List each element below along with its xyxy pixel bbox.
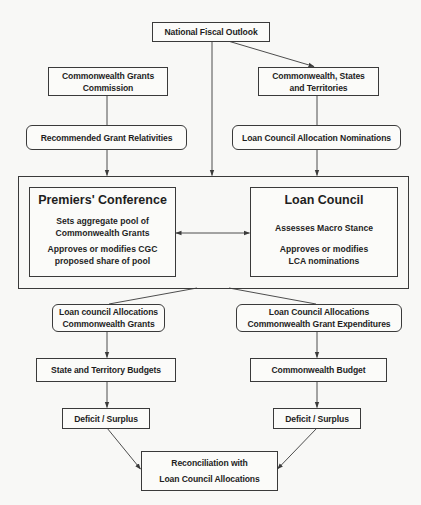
node-lca-commonwealth-grant-expenditures: Loan Council Allocations Commonwealth Gr… (236, 304, 402, 332)
fiscal-flow-diagram: National Fiscal Outlook Commonwealth Gra… (0, 0, 421, 505)
node-label: Recommended Grant Relativities (41, 132, 173, 144)
edge-container-to-lca-grants (109, 288, 197, 304)
node-label: Commonwealth Grant Expenditures (247, 318, 390, 330)
edge-deficit-left-to-reconciliation (107, 428, 141, 469)
node-label: Loan Council Allocation Nominations (242, 132, 391, 144)
desc-line: Commonwealth Grants (30, 227, 175, 239)
node-lca-nominations: Loan Council Allocation Nominations (232, 125, 401, 150)
node-label: State and Territory Budgets (51, 364, 161, 376)
node-label: Commonwealth Grants (62, 70, 154, 82)
node-label: Deficit / Surplus (285, 413, 349, 425)
edge-deficit-right-to-reconciliation (278, 428, 318, 469)
node-label: Loan Council Allocations (159, 471, 259, 487)
premiers-conference-desc-pool: Sets aggregate pool of Commonwealth Gran… (30, 215, 175, 239)
desc-line: Sets aggregate pool of (30, 215, 175, 227)
loan-council-desc-lca: Approves or modifies LCA nominations (251, 243, 397, 267)
node-lca-commonwealth-grants: Loan council Allocations Commonwealth Gr… (52, 304, 165, 332)
node-label: National Fiscal Outlook (164, 26, 257, 38)
desc-line: Approves or modifies CGC (30, 243, 175, 255)
node-deficit-surplus-right: Deficit / Surplus (273, 408, 361, 429)
node-premiers-conference: Premiers' Conference Sets aggregate pool… (29, 187, 176, 277)
edge-container-to-lca-expenditures (229, 288, 316, 304)
node-commonwealth-states-territories: Commonwealth, States and Territories (258, 67, 379, 96)
node-label: Reconciliation with (171, 455, 247, 471)
node-label: Commonwealth Budget (271, 364, 365, 376)
node-reconciliation: Reconciliation with Loan Council Allocat… (141, 451, 278, 491)
node-label: Commonwealth, States (272, 70, 365, 82)
node-label: Loan council Allocations (59, 306, 158, 318)
node-label: Commission (83, 82, 134, 94)
loan-council-desc-macro: Assesses Macro Stance (251, 222, 397, 234)
node-label: Commonwealth Grants (62, 318, 154, 330)
loan-council-title: Loan Council (251, 193, 397, 207)
node-national-fiscal-outlook: National Fiscal Outlook (152, 22, 270, 42)
node-commonwealth-grants-commission: Commonwealth Grants Commission (48, 67, 168, 96)
desc-line: Assesses Macro Stance (251, 222, 397, 234)
node-loan-council: Loan Council Assesses Macro Stance Appro… (250, 187, 398, 277)
node-label: Loan Council Allocations (269, 306, 369, 318)
node-commonwealth-budget: Commonwealth Budget (250, 358, 387, 382)
node-label: and Territories (289, 82, 347, 94)
node-label: Deficit / Surplus (74, 413, 138, 425)
node-state-territory-budgets: State and Territory Budgets (36, 358, 176, 382)
node-deficit-surplus-left: Deficit / Surplus (62, 408, 150, 429)
premiers-conference-title: Premiers' Conference (30, 193, 175, 207)
desc-line: proposed share of pool (30, 255, 175, 267)
desc-line: Approves or modifies (251, 243, 397, 255)
desc-line: LCA nominations (251, 255, 397, 267)
edge-outlook-to-cst (228, 41, 314, 67)
node-recommended-grant-relativities: Recommended Grant Relativities (26, 125, 187, 150)
premiers-conference-desc-cgc: Approves or modifies CGC proposed share … (30, 243, 175, 267)
